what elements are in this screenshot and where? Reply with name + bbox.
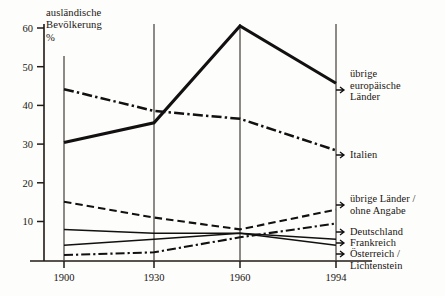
arrow-head-icon bbox=[336, 251, 344, 257]
arrow-head-icon bbox=[336, 87, 344, 93]
y-tick-label: 40 bbox=[23, 100, 34, 111]
legend-item-uebrige-laender-ohne-angabe: übrige Länder / ohne Angabe bbox=[350, 193, 416, 216]
legend-leader-arrows bbox=[336, 87, 344, 257]
arrow-head-icon bbox=[336, 152, 344, 158]
legend-item-frankreich: Frankreich bbox=[350, 237, 396, 249]
arrow-head-icon bbox=[336, 202, 344, 208]
legend-item-deutschland: Deutschland bbox=[350, 226, 403, 238]
x-axis-ticks bbox=[64, 261, 336, 268]
legend-item-uebrige-europaeische-laender: übrige europäische Länder bbox=[350, 68, 401, 103]
series-group bbox=[64, 26, 336, 255]
x-tick-label: 1900 bbox=[54, 272, 75, 283]
x-tick-label: 1994 bbox=[326, 272, 348, 283]
x-tick-label: 1960 bbox=[230, 272, 251, 283]
y-tick-label: 20 bbox=[23, 178, 34, 189]
series-line-uebrige-laender-ohne-angabe bbox=[64, 202, 336, 230]
y-tick-label: 60 bbox=[23, 23, 34, 34]
y-tick-label: 10 bbox=[23, 216, 34, 227]
y-axis-ticks bbox=[37, 28, 44, 222]
arrow-head-icon bbox=[336, 229, 344, 235]
y-tick-labels: 60 50 40 30 20 10 bbox=[23, 23, 34, 228]
series-line-uebrige-europaeische-laender bbox=[64, 26, 336, 143]
arrow-head-icon bbox=[336, 240, 344, 246]
series-line-frankreich bbox=[64, 233, 336, 245]
series-line-italien bbox=[64, 89, 336, 150]
y-tick-label: 50 bbox=[23, 62, 34, 73]
y-tick-label: 30 bbox=[23, 139, 34, 150]
series-line-deutschland bbox=[64, 229, 336, 239]
x-tick-label: 1930 bbox=[144, 272, 165, 283]
series-line-oesterreich-lichtenstein bbox=[64, 223, 336, 255]
legend-item-oesterreich-lichtenstein: Österreich / Lichtenstein bbox=[350, 248, 403, 271]
x-tick-labels: 1900 1930 1960 1994 bbox=[54, 272, 348, 283]
legend-item-italien: Italien bbox=[350, 149, 377, 161]
chart-container: ausländische Bevölkerung % bbox=[0, 0, 445, 296]
